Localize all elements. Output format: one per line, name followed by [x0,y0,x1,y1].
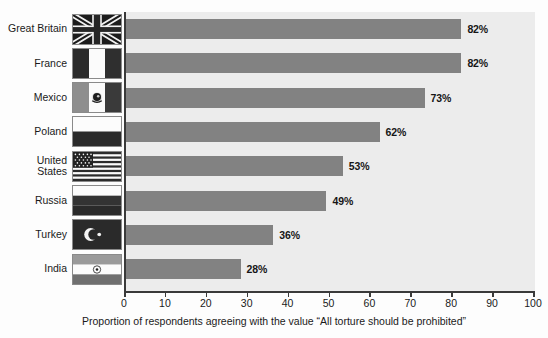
flag-turkey-icon [72,219,122,250]
bar [126,122,380,142]
bar-row: 28% [126,259,535,279]
bar-row: 82% [126,19,535,39]
flag-india-icon [72,254,122,285]
bar-value-label: 82% [467,57,488,69]
plot-area: 82%82%73%62%53%49%36%28% [124,12,535,291]
country-label: Mexico [34,92,72,104]
bar [126,88,425,108]
bar-value-label: 49% [332,195,353,207]
category-row: France [0,46,122,80]
x-tick-label: 10 [159,297,171,309]
category-row: Great Britain [0,12,122,46]
bar-row: 53% [126,156,535,176]
x-tick-label: 30 [241,297,253,309]
country-label: United States [37,155,72,178]
bar [126,156,343,176]
country-label: France [34,58,72,70]
category-row: Russia [0,184,122,218]
horizontal-bar-chart: 82%82%73%62%53%49%36%28% Great Britain F… [0,0,548,338]
flag-great-britain-icon [72,14,122,45]
flag-mexico-icon [72,82,122,113]
country-label: Great Britain [8,23,72,35]
x-tick-label: 60 [364,297,376,309]
bar-value-label: 73% [431,92,452,104]
bar-row: 73% [126,88,535,108]
category-row: United States [0,149,122,183]
bar [126,191,326,211]
bar-value-label: 62% [386,126,407,138]
flag-russia-icon [72,185,122,216]
x-tick-label: 0 [121,297,127,309]
category-row: Mexico [0,81,122,115]
flag-united-states-icon [72,151,122,182]
bar-value-label: 53% [349,160,370,172]
country-label: Poland [34,126,72,138]
category-row: Turkey [0,218,122,252]
bar [126,225,273,245]
x-tick-label: 100 [524,297,542,309]
country-label: India [44,263,72,275]
flag-poland-icon [72,116,122,147]
bar [126,53,461,73]
x-tick-label: 20 [200,297,212,309]
x-tick-label: 70 [404,297,416,309]
country-label: Russia [35,195,72,207]
country-label: Turkey [35,229,72,241]
x-axis-label: Proportion of respondents agreeing with … [0,315,548,327]
bar [126,19,461,39]
bar-value-label: 28% [247,263,268,275]
bar [126,259,241,279]
bar-value-label: 36% [279,229,300,241]
x-tick-label: 50 [323,297,335,309]
bar-row: 49% [126,191,535,211]
bar-row: 62% [126,122,535,142]
category-row: Poland [0,115,122,149]
x-tick-label: 80 [445,297,457,309]
bar-row: 36% [126,225,535,245]
bar-row: 82% [126,53,535,73]
x-tick-label: 40 [282,297,294,309]
bar-value-label: 82% [467,23,488,35]
category-row: India [0,252,122,286]
x-tick-label: 90 [486,297,498,309]
flag-france-icon [72,48,122,79]
